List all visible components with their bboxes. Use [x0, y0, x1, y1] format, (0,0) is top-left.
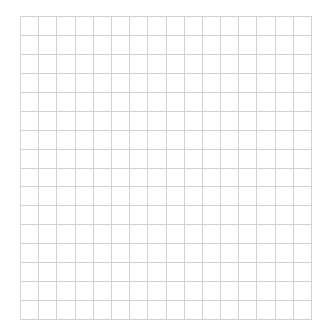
grid-cell[interactable]: [238, 73, 256, 92]
grid-cell[interactable]: [111, 300, 129, 319]
grid-cell[interactable]: [166, 262, 184, 281]
grid-cell[interactable]: [56, 16, 74, 35]
grid-cell[interactable]: [220, 130, 238, 149]
grid-cell[interactable]: [129, 224, 147, 243]
grid-cell[interactable]: [75, 54, 93, 73]
grid-cell[interactable]: [256, 149, 274, 168]
grid-cell[interactable]: [256, 168, 274, 187]
grid-cell[interactable]: [275, 54, 293, 73]
grid-cell[interactable]: [56, 92, 74, 111]
grid-cell[interactable]: [147, 300, 165, 319]
grid-cell[interactable]: [220, 243, 238, 262]
grid-cell[interactable]: [202, 281, 220, 300]
grid-cell[interactable]: [202, 300, 220, 319]
grid-cell[interactable]: [293, 54, 311, 73]
grid-cell[interactable]: [184, 300, 202, 319]
grid-cell[interactable]: [184, 111, 202, 130]
grid-cell[interactable]: [166, 111, 184, 130]
grid-cell[interactable]: [166, 168, 184, 187]
grid-cell[interactable]: [38, 243, 56, 262]
grid-cell[interactable]: [111, 54, 129, 73]
grid-cell[interactable]: [256, 111, 274, 130]
grid-cell[interactable]: [111, 92, 129, 111]
grid-cell[interactable]: [238, 224, 256, 243]
grid-cell[interactable]: [111, 186, 129, 205]
grid-cell[interactable]: [166, 243, 184, 262]
grid-cell[interactable]: [238, 168, 256, 187]
grid-cell[interactable]: [238, 149, 256, 168]
grid-cell[interactable]: [75, 111, 93, 130]
grid-cell[interactable]: [256, 54, 274, 73]
grid-cell[interactable]: [75, 149, 93, 168]
grid-cell[interactable]: [184, 54, 202, 73]
grid-cell[interactable]: [202, 186, 220, 205]
grid-cell[interactable]: [238, 300, 256, 319]
grid-cell[interactable]: [38, 300, 56, 319]
grid-cell[interactable]: [220, 186, 238, 205]
grid-cell[interactable]: [220, 16, 238, 35]
grid-cell[interactable]: [238, 35, 256, 54]
grid-cell[interactable]: [293, 262, 311, 281]
grid-cell[interactable]: [38, 205, 56, 224]
grid-cell[interactable]: [202, 243, 220, 262]
grid-cell[interactable]: [147, 54, 165, 73]
grid-cell[interactable]: [93, 168, 111, 187]
grid-cell[interactable]: [56, 281, 74, 300]
grid-cell[interactable]: [166, 35, 184, 54]
grid-cell[interactable]: [293, 186, 311, 205]
grid-cell[interactable]: [275, 130, 293, 149]
grid-cell[interactable]: [238, 243, 256, 262]
grid-cell[interactable]: [184, 73, 202, 92]
grid-cell[interactable]: [56, 186, 74, 205]
grid-cell[interactable]: [184, 16, 202, 35]
grid-cell[interactable]: [38, 16, 56, 35]
grid-cell[interactable]: [20, 130, 38, 149]
grid-cell[interactable]: [20, 205, 38, 224]
grid-cell[interactable]: [56, 205, 74, 224]
grid-cell[interactable]: [38, 54, 56, 73]
grid-cell[interactable]: [111, 205, 129, 224]
grid-cell[interactable]: [147, 149, 165, 168]
grid-cell[interactable]: [147, 281, 165, 300]
grid-cell[interactable]: [20, 300, 38, 319]
grid-cell[interactable]: [147, 35, 165, 54]
grid-cell[interactable]: [238, 54, 256, 73]
grid-cell[interactable]: [184, 186, 202, 205]
grid-cell[interactable]: [93, 16, 111, 35]
grid-cell[interactable]: [293, 130, 311, 149]
grid-cell[interactable]: [293, 73, 311, 92]
grid-cell[interactable]: [202, 73, 220, 92]
grid-cell[interactable]: [56, 262, 74, 281]
grid-cell[interactable]: [147, 168, 165, 187]
grid-cell[interactable]: [38, 224, 56, 243]
grid-cell[interactable]: [93, 205, 111, 224]
grid-cell[interactable]: [75, 92, 93, 111]
grid-cell[interactable]: [129, 16, 147, 35]
grid-cell[interactable]: [238, 92, 256, 111]
grid-cell[interactable]: [75, 16, 93, 35]
grid-cell[interactable]: [56, 149, 74, 168]
grid-cell[interactable]: [202, 130, 220, 149]
grid-cell[interactable]: [184, 281, 202, 300]
grid-cell[interactable]: [129, 54, 147, 73]
grid-cell[interactable]: [293, 111, 311, 130]
grid-cell[interactable]: [238, 16, 256, 35]
grid-cell[interactable]: [93, 73, 111, 92]
grid-cell[interactable]: [38, 186, 56, 205]
grid-cell[interactable]: [275, 35, 293, 54]
grid-cell[interactable]: [238, 262, 256, 281]
grid-cell[interactable]: [202, 149, 220, 168]
grid-cell[interactable]: [129, 149, 147, 168]
grid-cell[interactable]: [202, 262, 220, 281]
grid-cell[interactable]: [38, 130, 56, 149]
grid-cell[interactable]: [220, 224, 238, 243]
grid-cell[interactable]: [38, 111, 56, 130]
grid-cell[interactable]: [56, 130, 74, 149]
grid-cell[interactable]: [129, 262, 147, 281]
grid-cell[interactable]: [184, 130, 202, 149]
grid-cell[interactable]: [202, 205, 220, 224]
grid-cell[interactable]: [129, 130, 147, 149]
grid-cell[interactable]: [20, 262, 38, 281]
grid-cell[interactable]: [184, 243, 202, 262]
grid-cell[interactable]: [20, 73, 38, 92]
